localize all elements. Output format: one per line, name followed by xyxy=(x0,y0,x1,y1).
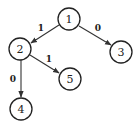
node-3: 3 xyxy=(110,41,132,63)
edge-label-2-4: 0 xyxy=(10,74,16,84)
node-4: 4 xyxy=(10,98,32,120)
edge-2-to-5 xyxy=(30,55,59,73)
node-2: 2 xyxy=(9,38,31,60)
tree-diagram: 1 0 0 1 1 2 3 4 5 xyxy=(0,0,140,127)
node-5: 5 xyxy=(59,68,81,90)
node-2-label: 2 xyxy=(17,43,24,56)
node-5-label: 5 xyxy=(67,73,74,86)
node-4-label: 4 xyxy=(18,103,25,116)
edge-label-1-2: 1 xyxy=(38,23,44,33)
edge-1-to-2 xyxy=(31,25,59,43)
node-3-label: 3 xyxy=(118,46,125,59)
node-1-label: 1 xyxy=(66,13,73,26)
edge-label-1-3: 0 xyxy=(95,23,101,33)
edge-label-2-5: 1 xyxy=(46,54,52,64)
node-1: 1 xyxy=(58,8,80,30)
